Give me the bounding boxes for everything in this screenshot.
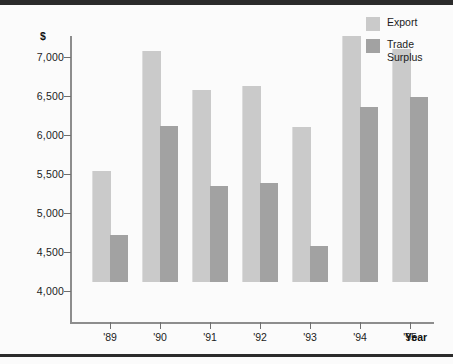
x-axis-tick bbox=[110, 322, 111, 329]
bar-trade-surplus[interactable] bbox=[260, 183, 278, 282]
y-axis-tick-label: 4,000 bbox=[18, 285, 64, 297]
bar-export[interactable] bbox=[142, 51, 161, 282]
bar-group bbox=[142, 0, 178, 282]
x-axis-tick-label: '92 bbox=[240, 331, 280, 343]
bar-export[interactable] bbox=[192, 90, 211, 282]
x-axis-tick bbox=[260, 322, 261, 329]
x-axis-tick-label: '93 bbox=[290, 331, 330, 343]
y-axis-tick-label: 7,000 bbox=[18, 51, 64, 63]
bar-export[interactable] bbox=[342, 36, 361, 282]
chart-legend: ExportTrade Surplus bbox=[366, 16, 452, 70]
bar-trade-surplus[interactable] bbox=[410, 97, 428, 282]
legend-item[interactable]: Export bbox=[366, 16, 452, 31]
bar-trade-surplus[interactable] bbox=[310, 246, 328, 282]
bar-trade-surplus[interactable] bbox=[160, 126, 178, 282]
x-axis-tick-label: '94 bbox=[340, 331, 380, 343]
bar-trade-surplus[interactable] bbox=[210, 186, 228, 282]
bottom-border-rule bbox=[0, 354, 453, 357]
y-axis-unit-label: $ bbox=[40, 30, 46, 42]
bar-group bbox=[292, 0, 328, 282]
bar-export[interactable] bbox=[242, 86, 261, 282]
x-axis-tick-label: '90 bbox=[140, 331, 180, 343]
legend-swatch-trade-surplus bbox=[366, 39, 380, 53]
bar-export[interactable] bbox=[92, 171, 111, 282]
chart-page: $ 7,0006,5006,0005,5005,0004,5004,000 '8… bbox=[0, 0, 453, 364]
legend-swatch-export bbox=[366, 17, 380, 31]
y-axis-tick-label: 6,500 bbox=[18, 90, 64, 102]
x-axis-tick bbox=[310, 322, 311, 329]
legend-item-label: Export bbox=[387, 16, 452, 29]
x-axis-tick bbox=[360, 322, 361, 329]
legend-item-label: Trade Surplus bbox=[387, 38, 452, 63]
bar-group bbox=[192, 0, 228, 282]
bar-export[interactable] bbox=[392, 49, 411, 282]
x-axis-tick bbox=[160, 322, 161, 329]
y-axis-tick-label: 6,000 bbox=[18, 129, 64, 141]
x-axis-tick bbox=[410, 322, 411, 329]
x-axis-tick-label: '89 bbox=[90, 331, 130, 343]
x-axis-title: Year bbox=[405, 331, 427, 343]
x-axis-tick bbox=[210, 322, 211, 329]
y-axis-tick-label: 4,500 bbox=[18, 246, 64, 258]
bar-group bbox=[92, 0, 128, 282]
bar-trade-surplus[interactable] bbox=[360, 107, 378, 282]
legend-item[interactable]: Trade Surplus bbox=[366, 38, 452, 63]
bar-trade-surplus[interactable] bbox=[110, 235, 128, 282]
bar-export[interactable] bbox=[292, 127, 311, 282]
bar-group bbox=[242, 0, 278, 282]
y-axis-tick-label: 5,000 bbox=[18, 207, 64, 219]
x-axis-tick-label: '91 bbox=[190, 331, 230, 343]
y-axis-tick-label: 5,500 bbox=[18, 168, 64, 180]
